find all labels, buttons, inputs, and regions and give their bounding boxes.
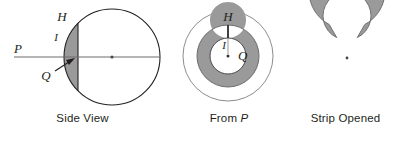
from-p-diagram: H I Q (165, 0, 293, 112)
strip-opened-diagram (293, 0, 398, 112)
caption-from-p-prefix: From (210, 112, 241, 124)
label-p: P (13, 41, 22, 56)
label-q: Q (238, 48, 248, 63)
caption-from-p: From P (165, 112, 293, 124)
strip-center-dot (346, 57, 349, 60)
caption-strip-opened: Strip Opened (293, 112, 398, 124)
opened-strip-shape (309, 0, 385, 38)
side-view-diagram: P H I Q (0, 0, 165, 112)
geometry-figure: P H I Q Side View (0, 0, 398, 141)
sphere-center-dot (110, 55, 113, 58)
label-q: Q (41, 68, 51, 83)
panel-strip-opened: Strip Opened (293, 0, 398, 141)
panel-from-p: H I Q From P (165, 0, 293, 141)
label-h: H (56, 9, 67, 24)
label-h: H (222, 9, 233, 24)
caption-side-view: Side View (0, 112, 165, 124)
label-i: I (53, 31, 59, 43)
panel-side-view: P H I Q Side View (0, 0, 165, 141)
center-dot-q (227, 55, 230, 58)
caption-from-p-italic: P (240, 112, 248, 124)
